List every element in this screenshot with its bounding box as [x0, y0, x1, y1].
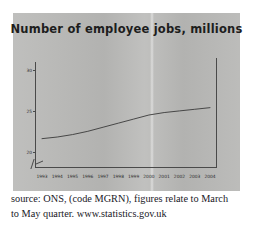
source-caption: source: ONS, (code MGRN), figures relate…: [11, 192, 247, 221]
x-tick-label: 1996: [82, 174, 93, 179]
y-tick-label: 20: [26, 149, 32, 154]
plot-area: 302520 199319941995199619971998199920002…: [35, 62, 217, 168]
data-series-line: [35, 62, 217, 168]
x-axis-ticks: 1993199419951996199719981999200020012002…: [35, 174, 217, 184]
x-tick-label: 1994: [52, 174, 63, 179]
x-tick-label: 2004: [204, 174, 215, 179]
scanned-chart-page: Number of employee jobs, millions 302520…: [0, 0, 253, 230]
x-tick-label: 2000: [143, 174, 154, 179]
y-tick-label: 30: [26, 68, 32, 73]
x-tick-label: 2003: [189, 174, 200, 179]
x-tick-label: 1997: [97, 174, 108, 179]
y-tick-label: 25: [26, 108, 32, 113]
source-line-1: source: ONS, (code MGRN), figures relate…: [11, 192, 247, 207]
x-tick-label: 2002: [174, 174, 185, 179]
x-tick-label: 1993: [36, 174, 47, 179]
x-tick-label: 1998: [113, 174, 124, 179]
x-tick-label: 1995: [67, 174, 78, 179]
x-tick-label: 2001: [159, 174, 170, 179]
chart-title: Number of employee jobs, millions: [0, 22, 253, 36]
source-line-2: to May quarter. www.statistics.gov.uk: [11, 207, 247, 222]
x-tick-label: 1999: [128, 174, 139, 179]
